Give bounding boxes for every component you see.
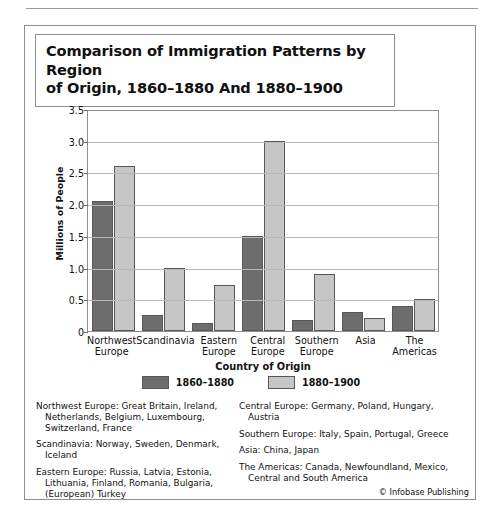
y-axis-tick-mark	[84, 237, 88, 238]
y-axis-tick-label: 1.5	[69, 231, 84, 242]
y-axis-tick-mark	[84, 332, 88, 333]
bar	[414, 299, 435, 331]
region-notes-left-column: Northwest Europe: Great Britain, Ireland…	[36, 401, 241, 505]
bar-group	[292, 110, 335, 331]
y-axis-tick-mark	[84, 173, 88, 174]
legend-item: 1880–1900	[268, 376, 360, 389]
y-axis-tick-label: 2.0	[69, 200, 84, 211]
chart-title-line-1: Comparison of Immigration Patterns by Re…	[46, 42, 385, 79]
bar	[364, 318, 385, 331]
gridline	[88, 205, 438, 206]
bar	[392, 306, 413, 331]
gridline	[88, 142, 438, 143]
bar	[314, 274, 335, 331]
y-axis-tick-mark	[84, 110, 88, 111]
region-note: Southern Europe: Italy, Spain, Portugal,…	[239, 429, 467, 440]
bar-group	[92, 110, 135, 331]
region-note: Asia: China, Japan	[239, 445, 467, 456]
x-axis-tick-label: Southern Europe	[292, 335, 341, 358]
region-note: The Americas: Canada, Newfoundland, Mexi…	[239, 462, 467, 484]
x-axis-tick-label: Eastern Europe	[194, 335, 243, 358]
bar-group	[342, 110, 385, 331]
chart-legend: 1860–18801880–1900	[25, 376, 477, 389]
y-axis-tick-mark	[84, 300, 88, 301]
chart-title-box: Comparison of Immigration Patterns by Re…	[35, 34, 395, 107]
chart-title-line-2: of Origin, 1860–1880 And 1880–1900	[46, 79, 385, 98]
legend-swatch	[268, 376, 295, 389]
y-axis-title: Millions of People	[54, 154, 65, 274]
bar	[292, 320, 313, 331]
bar	[114, 166, 135, 331]
y-axis-tick-mark	[84, 142, 88, 143]
bar-group	[242, 110, 285, 331]
figure-container: Comparison of Immigration Patterns by Re…	[24, 25, 476, 500]
gridline	[88, 269, 438, 270]
bar	[164, 268, 185, 331]
y-axis-tick-label: 1.0	[69, 263, 84, 274]
region-note: Central Europe: Germany, Poland, Hungary…	[239, 401, 467, 423]
bar	[242, 236, 263, 331]
plot-area-wrapper: Millions of People 00.51.01.52.02.53.03.…	[25, 104, 477, 362]
plot-area: 00.51.01.52.02.53.03.5	[87, 110, 439, 332]
y-axis-tick-label: 2.5	[69, 168, 84, 179]
y-axis-tick-mark	[84, 205, 88, 206]
x-axis-tick-label: Asia	[341, 335, 390, 358]
bar-group	[392, 110, 435, 331]
gridline	[88, 110, 438, 111]
y-axis-tick-label: 3.0	[69, 136, 84, 147]
bar	[342, 312, 363, 331]
gridline	[88, 300, 438, 301]
x-axis-tick-labels: Northwest EuropeScandinaviaEastern Europ…	[87, 335, 439, 358]
bar	[192, 323, 213, 331]
bar	[142, 315, 163, 331]
bar-series-container	[88, 110, 438, 331]
bar	[214, 285, 235, 331]
region-notes-right-column: Central Europe: Germany, Poland, Hungary…	[239, 401, 467, 490]
legend-swatch	[142, 376, 169, 389]
x-axis-tick-label: Central Europe	[243, 335, 292, 358]
x-axis-tick-label: The Americas	[390, 335, 439, 358]
x-axis-tick-label: Northwest Europe	[87, 335, 136, 358]
legend-label: 1860–1880	[176, 377, 234, 388]
gridline	[88, 173, 438, 174]
x-axis-title: Country of Origin	[87, 361, 439, 372]
legend-item: 1860–1880	[142, 376, 234, 389]
x-axis-tick-label: Scandinavia	[136, 335, 194, 358]
copyright-credit: © Infobase Publishing	[379, 487, 469, 497]
gridline	[88, 237, 438, 238]
region-notes: Northwest Europe: Great Britain, Ireland…	[25, 401, 477, 499]
region-note: Northwest Europe: Great Britain, Ireland…	[36, 401, 241, 433]
y-axis-tick-mark	[84, 269, 88, 270]
bar-group	[142, 110, 185, 331]
region-note: Scandinavia: Norway, Sweden, Denmark, Ic…	[36, 439, 241, 461]
bar	[92, 201, 113, 331]
y-axis-tick-label: 0.5	[69, 295, 84, 306]
bar-group	[192, 110, 235, 331]
y-axis-tick-label: 3.5	[69, 105, 84, 116]
page-top-rule	[26, 8, 478, 9]
region-note: Eastern Europe: Russia, Latvia, Estonia,…	[36, 467, 241, 499]
legend-label: 1880–1900	[302, 377, 360, 388]
